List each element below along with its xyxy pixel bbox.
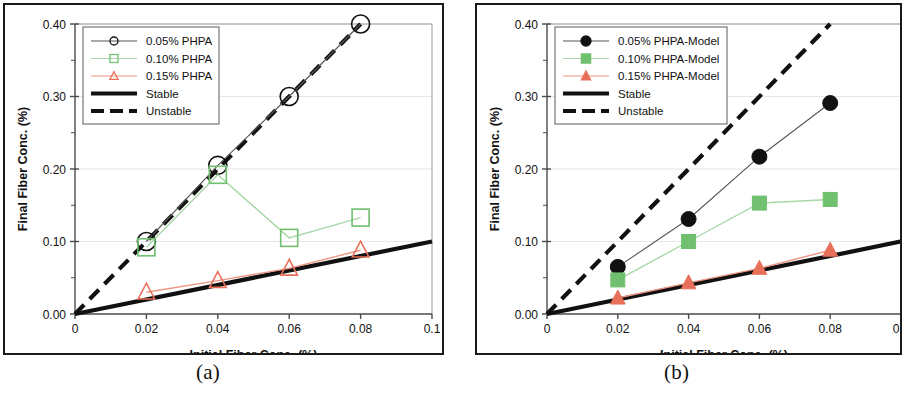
panel-caption-b: (b) [664, 360, 689, 385]
legend-label-4: Unstable [146, 105, 191, 117]
data-point-marker [752, 196, 766, 210]
x-axis-tick-label: 0 [544, 322, 551, 336]
legend-marker-1 [581, 54, 590, 63]
data-point-marker [823, 192, 837, 206]
series-line-0 [618, 103, 830, 267]
figure-container: 0.000.100.200.300.4000.020.040.060.080.1… [0, 0, 920, 399]
y-axis-tick-label: 0.00 [515, 308, 539, 322]
x-axis-tick-label: 0.08 [819, 322, 843, 336]
chart-panel-b: 0.000.100.200.300.4000.020.040.060.080.1… [475, 3, 902, 355]
y-axis-tick-label: 0.00 [43, 308, 67, 322]
x-axis-tick-label: 0.04 [677, 322, 701, 336]
legend-label-3: Stable [146, 88, 179, 100]
x-axis-tick-label: 0 [72, 322, 79, 336]
x-axis-tick-label: 0.02 [135, 322, 159, 336]
legend-label-2: 0.15% PHPA [146, 70, 213, 82]
x-axis-tick-label: 0.1 [893, 322, 900, 336]
data-point-marker [682, 235, 696, 249]
series-line-1 [146, 175, 360, 248]
y-axis-tick-label: 0.10 [515, 235, 539, 249]
legend-label-2: 0.15% PHPA-Model [618, 70, 719, 82]
legend-label-3: Stable [618, 88, 651, 100]
chart-a-plot: 0.000.100.200.300.4000.020.040.060.080.1… [5, 5, 442, 353]
y-axis-tick-label: 0.20 [515, 163, 539, 177]
legend-label-1: 0.10% PHPA [146, 53, 213, 65]
data-point-marker [610, 259, 625, 274]
x-axis-tick-label: 0.08 [349, 322, 373, 336]
series-line-2 [146, 250, 360, 292]
data-point-marker [752, 149, 767, 164]
y-axis-tick-label: 0.10 [43, 235, 67, 249]
y-axis-tick-label: 0.40 [515, 18, 539, 32]
x-axis-title: Initial Fiber Conc. (%) [190, 348, 318, 353]
legend-label-4: Unstable [618, 105, 663, 117]
legend-label-1: 0.10% PHPA-Model [618, 53, 719, 65]
data-point-marker [823, 242, 838, 256]
y-axis-tick-label: 0.30 [515, 90, 539, 104]
panel-caption-a: (a) [196, 360, 220, 385]
x-axis-title: Initial Fiber Conc. (%) [660, 348, 788, 353]
reference-line-stable [547, 242, 900, 315]
chart-b-plot: 0.000.100.200.300.4000.020.040.060.080.1… [477, 5, 900, 353]
y-axis-title: Final Fiber Conc. (%) [488, 107, 502, 231]
x-axis-tick-label: 0.1 [424, 322, 441, 336]
series-line-2 [618, 250, 830, 298]
x-axis-tick-label: 0.04 [206, 322, 230, 336]
chart-panel-a: 0.000.100.200.300.4000.020.040.060.080.1… [3, 3, 444, 355]
y-axis-tick-label: 0.30 [43, 90, 67, 104]
data-point-marker [823, 96, 838, 111]
x-axis-tick-label: 0.06 [278, 322, 302, 336]
data-point-marker [611, 273, 625, 287]
reference-line-stable [75, 242, 432, 315]
y-axis-tick-label: 0.20 [43, 163, 67, 177]
legend-marker-0 [581, 36, 591, 46]
series-line-1 [618, 199, 830, 279]
data-point-marker [681, 212, 696, 227]
x-axis-tick-label: 0.06 [748, 322, 772, 336]
legend-label-0: 0.05% PHPA [146, 35, 213, 47]
x-axis-tick-label: 0.02 [606, 322, 630, 336]
y-axis-tick-label: 0.40 [43, 18, 67, 32]
y-axis-title: Final Fiber Conc. (%) [16, 107, 30, 231]
legend-label-0: 0.05% PHPA-Model [618, 35, 719, 47]
